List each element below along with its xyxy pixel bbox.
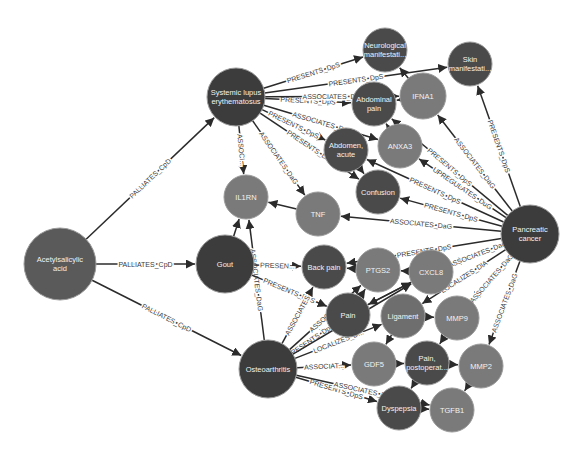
edge-gout-to-il1rn[interactable] (234, 219, 239, 236)
node-label: Neurological (364, 41, 406, 50)
node-label: CXCL8 (419, 268, 443, 277)
node-label: acute (337, 150, 355, 159)
edge-acetylsalicylic_acid-to-sle[interactable]: PALLIATES_CpDPALLIATES_CpD (86, 118, 214, 240)
node-label: Abdomen, (329, 141, 363, 150)
node-label: TGFB1 (440, 406, 464, 415)
edge-line[interactable] (347, 268, 356, 269)
edge-mmp9-to-pain_postop[interactable] (440, 336, 445, 344)
node-label: Systemic lupus (211, 88, 262, 97)
node-label: Pain, (418, 354, 435, 363)
edge-line[interactable] (449, 364, 458, 365)
edge-anxa3-to-abdominal_pain[interactable] (386, 124, 388, 128)
edge-label: PRESENTS_DpS (486, 119, 512, 174)
edge-ifna1-to-abdominal_pain[interactable] (397, 100, 401, 101)
node-skin[interactable]: Skinmanifestati... (448, 42, 492, 86)
edge-pain_postop-to-mmp2[interactable] (449, 364, 458, 365)
node-label: postoperat... (406, 363, 448, 372)
edge-line[interactable] (386, 335, 392, 344)
edge-line[interactable] (440, 336, 445, 344)
node-label: TNF (311, 210, 326, 219)
node-label: Confusion (361, 188, 395, 197)
node-anxa3[interactable]: ANXA3 (378, 124, 422, 168)
knowledge-graph-canvas[interactable]: PALLIATES_CpDPALLIATES_CpDPALLIATES_CpDP… (0, 0, 580, 456)
edge-line[interactable] (359, 167, 364, 173)
edge-label: PALLIATES_CpD (118, 261, 172, 269)
edge-pancreatic_cancer-to-skin[interactable]: PRESENTS_DpSPRESENTS_DpS (478, 86, 521, 207)
node-label: Back pain (308, 263, 341, 272)
edge-acetylsalicylic_acid-to-gout[interactable]: PALLIATES_CpDPALLIATES_CpD (96, 261, 195, 269)
node-label: IFNA1 (412, 92, 433, 101)
edge-abdomen_acute-to-confusion[interactable] (359, 167, 364, 173)
node-label: Pain (340, 311, 355, 320)
edge-ligament-to-gdf5[interactable] (386, 335, 392, 344)
edge-line[interactable] (360, 289, 365, 297)
edge-line[interactable] (465, 384, 469, 390)
node-tgfb1[interactable]: TGFB1 (430, 388, 474, 432)
node-label: GDF5 (364, 360, 384, 369)
edge-gout-to-back_pain[interactable]: PRESEN...PRESEN... (254, 262, 301, 270)
node-label: Pancreatic (512, 225, 548, 234)
node-ptgs2[interactable]: PTGS2 (356, 248, 400, 292)
node-label: Skin (463, 55, 478, 64)
node-label: Osteoarthritis (246, 365, 291, 374)
edge-label: PALLIATES_CpD (140, 303, 192, 335)
node-label: PTGS2 (366, 266, 391, 275)
edge-osteoarthritis-to-gdf5[interactable]: ASSOCIAT...ASSOCIAT... (297, 362, 351, 371)
node-mmp2[interactable]: MMP2 (459, 344, 503, 388)
node-ifna1[interactable]: IFNA1 (400, 73, 446, 119)
edge-line[interactable] (411, 382, 415, 389)
edge-line[interactable] (268, 202, 296, 209)
node-label: pain (367, 104, 381, 113)
edge-line[interactable] (397, 100, 401, 101)
node-dyspepsia[interactable]: Dyspepsia (377, 386, 421, 430)
node-pancreatic_cancer[interactable]: Pancreaticcancer (501, 205, 559, 263)
node-label: MMP2 (470, 362, 492, 371)
node-label: cancer (519, 234, 542, 243)
edge-pain_postop-to-dyspepsia[interactable] (411, 382, 415, 389)
node-label: manifestati... (364, 50, 407, 59)
edge-ptgs2-to-back_pain[interactable] (347, 268, 356, 269)
node-sle[interactable]: Systemic lupuserythematosus (207, 68, 265, 126)
node-pain_postop[interactable]: Pain,postoperat... (405, 341, 449, 385)
node-cxcl8[interactable]: CXCL8 (409, 250, 453, 294)
node-gdf5[interactable]: GDF5 (352, 342, 396, 386)
node-back_pain[interactable]: Back pain (302, 245, 346, 289)
node-abdominal_pain[interactable]: Abdominalpain (352, 82, 396, 126)
node-label: ANXA3 (388, 142, 413, 151)
node-ligament[interactable]: Ligament (381, 294, 425, 338)
node-il1rn[interactable]: IL1RN (224, 175, 268, 219)
edge-pain-to-ptgs2[interactable] (360, 289, 365, 297)
node-neuro[interactable]: Neurologicalmanifestati... (363, 28, 407, 72)
edge-line[interactable] (386, 124, 388, 128)
node-abdomen_acute[interactable]: Abdomen,acute (324, 128, 368, 172)
node-mmp9[interactable]: MMP9 (435, 296, 479, 340)
node-gout[interactable]: Gout (196, 235, 254, 293)
edge-label: ASSOCIATES (284, 294, 312, 336)
node-label: Gout (217, 260, 234, 269)
edge-tnf-to-il1rn[interactable] (268, 202, 296, 209)
node-tnf[interactable]: TNF (296, 192, 340, 236)
edge-label: ASSOCI... (236, 134, 246, 167)
edge-label: ASSOCIATES_DaG (389, 217, 452, 231)
edge-label: PRESEN... (260, 262, 295, 270)
node-pain[interactable]: Pain (326, 293, 370, 337)
node-osteoarthritis[interactable]: Osteoarthritis (239, 340, 297, 398)
edge-sle-to-il1rn[interactable]: ASSOCI...ASSOCI... (236, 126, 246, 174)
edge-label: PALLIATES_CpD (128, 157, 173, 200)
node-label: MMP9 (446, 314, 468, 323)
edge-mmp2-to-tgfb1[interactable] (465, 384, 469, 390)
node-label: manifestati... (449, 64, 492, 73)
node-label: Acetylsalicylic (37, 255, 84, 264)
node-confusion[interactable]: Confusion (356, 170, 400, 214)
node-label: acid (53, 264, 67, 273)
node-label: Dyspepsia (381, 404, 417, 413)
node-label: IL1RN (235, 193, 256, 202)
node-acetylsalicylic_acid[interactable]: Acetylsalicylicacid (24, 228, 96, 300)
edge-label: ASSOCIAT... (304, 362, 344, 371)
edge-line[interactable] (234, 219, 239, 236)
edge-label: ASSOCIATES_DaG (490, 272, 519, 333)
edges-layer: PALLIATES_CpDPALLIATES_CpDPALLIATES_CpDP… (86, 57, 520, 409)
node-label: Abdominal (356, 95, 392, 104)
node-label: Ligament (388, 312, 420, 321)
node-label: erythematosus (211, 97, 260, 106)
